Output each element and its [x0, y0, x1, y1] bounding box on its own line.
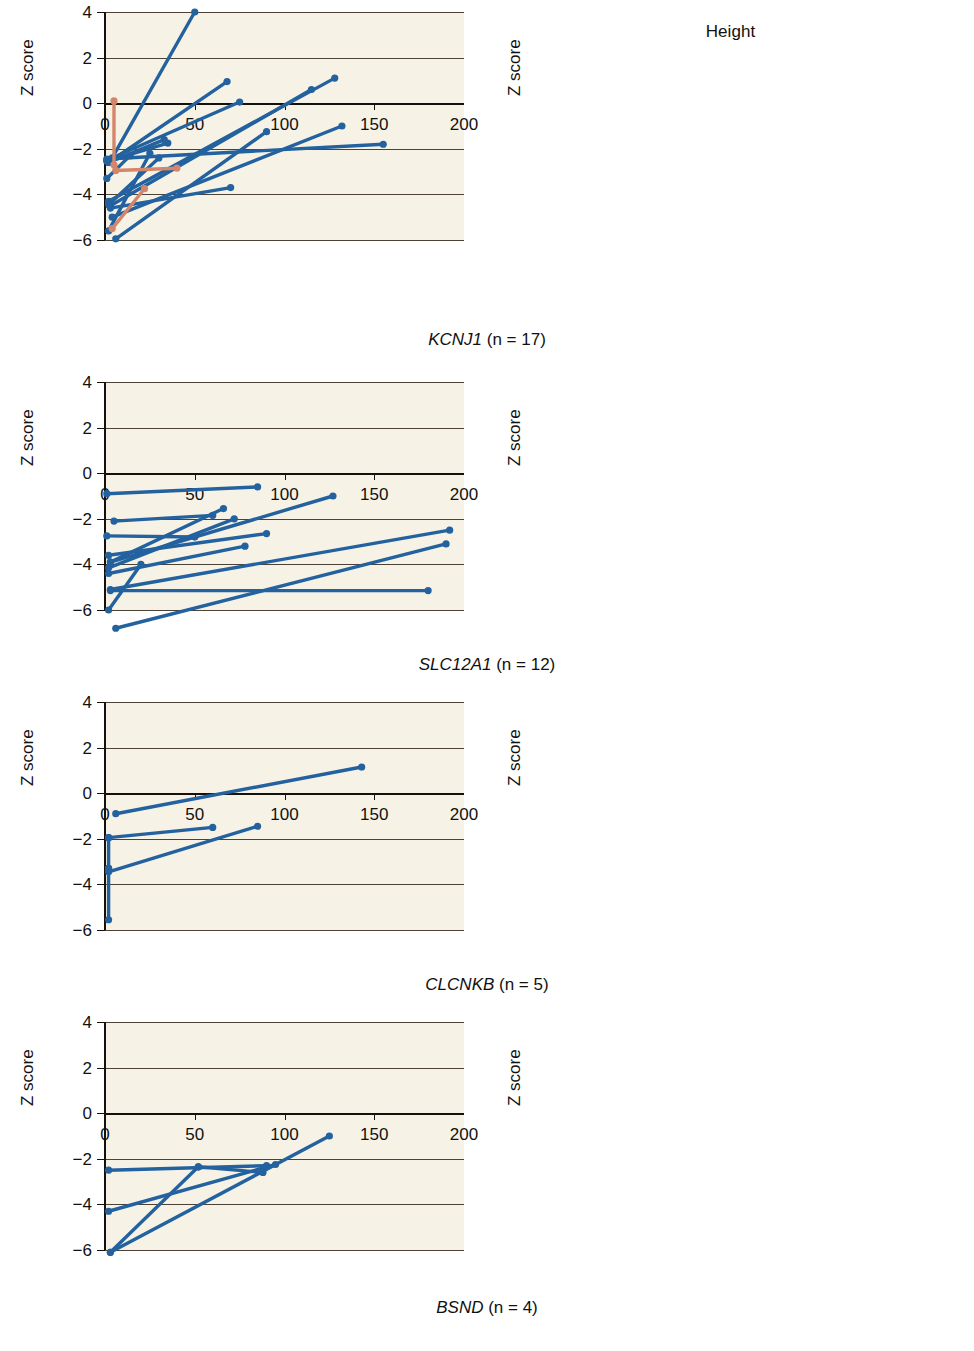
data-point-marker: [223, 78, 230, 85]
panel-row-slc12a1: Z score −6−4−2024050100150200 Z score −6…: [0, 370, 974, 690]
y-axis-tick: [97, 194, 105, 195]
data-point-marker: [146, 150, 153, 157]
data-point-marker: [103, 532, 110, 539]
y-axis-tick: [97, 240, 105, 241]
data-point-marker: [161, 136, 168, 143]
y-axis-tick-label: −2: [73, 140, 92, 157]
y-axis-tick-label: 2: [83, 419, 92, 436]
data-point-marker: [105, 1208, 112, 1215]
series-layer: [105, 12, 464, 240]
patient-trajectory-line: [107, 487, 258, 494]
y-axis-tick-label: −4: [73, 556, 92, 573]
data-point-marker: [329, 492, 336, 499]
data-point-marker: [191, 533, 198, 540]
caption-gene-name: KCNJ1: [428, 330, 482, 349]
panel-clcnkb-height: Z score −6−4−2024050100150200: [487, 690, 974, 1010]
caption-clcnkb: CLCNKB (n = 5): [0, 975, 974, 995]
caption-sample-size: (n = 12): [491, 655, 555, 674]
y-axis-tick-label: 0: [83, 95, 92, 112]
y-axis-label: Z score: [18, 729, 38, 786]
y-axis-tick-label: −4: [73, 876, 92, 893]
data-point-marker: [112, 625, 119, 632]
data-point-marker: [137, 561, 144, 568]
data-point-marker: [241, 543, 248, 550]
data-point-marker: [209, 824, 216, 831]
data-point-marker: [338, 122, 345, 129]
panel-kcnj1-weight: Weight Z score −6−4−2024050100150200: [0, 0, 487, 360]
data-point-marker: [446, 527, 453, 534]
patient-trajectory-line: [112, 12, 195, 158]
patient-trajectory-line: [116, 544, 446, 628]
y-axis-tick-label: −6: [73, 602, 92, 619]
data-point-marker: [236, 98, 243, 105]
plot-area-bsnd-weight: −6−4−2024050100150200: [105, 1022, 464, 1250]
data-point-marker: [141, 185, 148, 192]
y-axis-tick-label: 4: [83, 374, 92, 391]
data-point-marker: [105, 1167, 112, 1174]
data-point-marker: [105, 834, 112, 841]
y-axis-tick-label: −2: [73, 830, 92, 847]
gridline: [105, 930, 464, 931]
growth-z-score-figure: Weight Z score −6−4−2024050100150200 Hei…: [0, 0, 974, 1351]
caption-gene-name: CLCNKB: [425, 975, 494, 994]
panel-row-clcnkb: Z score −6−4−2024050100150200 Z score −6…: [0, 690, 974, 1010]
data-point-marker: [127, 152, 134, 159]
y-axis-label: Z score: [18, 409, 38, 466]
series-layer: [105, 702, 464, 930]
data-point-marker: [231, 515, 238, 522]
series-layer: [105, 382, 464, 610]
data-point-marker: [195, 1163, 202, 1170]
series-layer: [105, 1022, 464, 1250]
y-axis-tick-label: −4: [73, 1196, 92, 1213]
patient-trajectory-line: [109, 827, 213, 837]
data-point-marker: [112, 810, 119, 817]
data-point-marker: [220, 505, 227, 512]
y-axis-tick-label: 4: [83, 4, 92, 21]
caption-gene-name: SLC12A1: [419, 655, 492, 674]
y-axis-tick: [97, 103, 105, 104]
data-point-marker: [105, 865, 112, 872]
patient-trajectory-line: [116, 168, 177, 170]
y-axis-tick: [97, 149, 105, 150]
data-point-marker: [227, 184, 234, 191]
data-point-marker: [263, 128, 270, 135]
data-point-marker: [380, 141, 387, 148]
y-axis-tick: [97, 748, 105, 749]
y-axis-tick: [97, 1250, 105, 1251]
y-axis-tick: [97, 1113, 105, 1114]
panel-bsnd-weight: Z score −6−4−2024050100150200: [0, 1010, 487, 1340]
data-point-marker: [358, 763, 365, 770]
plot-area-kcnj1-weight: −6−4−2024050100150200: [105, 12, 464, 240]
y-axis-tick-label: 4: [83, 694, 92, 711]
data-point-marker: [259, 1169, 266, 1176]
y-axis-tick: [97, 428, 105, 429]
data-point-marker: [326, 1132, 333, 1139]
data-point-marker: [191, 8, 198, 15]
y-axis-tick-label: 0: [83, 465, 92, 482]
data-point-marker: [107, 587, 114, 594]
y-axis-tick-label: 0: [83, 1105, 92, 1122]
caption-sample-size: (n = 5): [494, 975, 548, 994]
plot-area-clcnkb-weight: −6−4−2024050100150200: [105, 702, 464, 930]
data-point-marker: [105, 552, 112, 559]
y-axis-tick: [97, 930, 105, 931]
y-axis-tick-label: −6: [73, 1242, 92, 1259]
y-axis-tick-label: −2: [73, 1150, 92, 1167]
clipped-caption-sliver: [0, 1343, 974, 1351]
panel-row-bsnd: Z score −6−4−2024050100150200 Z score −6…: [0, 1010, 974, 1340]
caption-sample-size: (n = 4): [483, 1298, 537, 1317]
data-point-marker: [105, 916, 112, 923]
y-axis-tick: [97, 1068, 105, 1069]
data-point-marker: [105, 201, 112, 208]
data-point-marker: [105, 606, 112, 613]
y-axis-tick: [97, 473, 105, 474]
data-point-marker: [112, 235, 119, 242]
y-axis-tick-label: 2: [83, 739, 92, 756]
plot-area-slc12a1-weight: −6−4−2024050100150200: [105, 382, 464, 610]
caption-gene-name: BSND: [436, 1298, 483, 1317]
panel-slc12a1-height: Z score −6−4−2024050100150200: [487, 370, 974, 690]
data-point-marker: [107, 1249, 114, 1256]
caption-kcnj1: KCNJ1 (n = 17): [0, 330, 974, 350]
data-point-marker: [103, 490, 110, 497]
y-axis-tick: [97, 793, 105, 794]
